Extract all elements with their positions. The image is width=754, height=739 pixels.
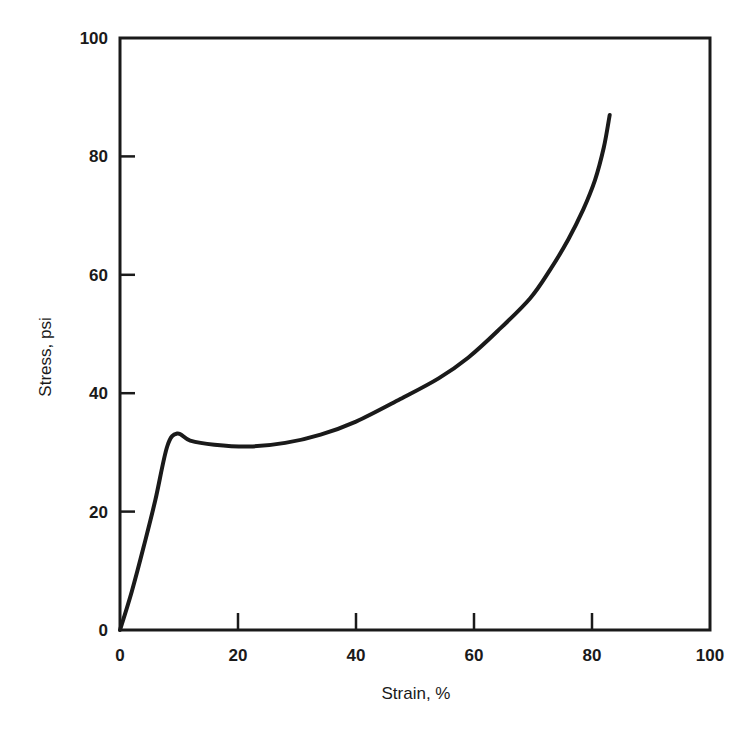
- y-tick-label: 20: [89, 503, 108, 522]
- x-axis-title: Strain, %: [382, 684, 451, 703]
- x-tick-label: 60: [465, 646, 484, 665]
- x-tick-label: 40: [347, 646, 366, 665]
- y-tick-label: 0: [99, 621, 108, 640]
- y-axis-title: Stress, psi: [36, 317, 55, 396]
- x-tick-label: 80: [583, 646, 602, 665]
- x-tick-label: 100: [696, 646, 724, 665]
- y-tick-label: 40: [89, 384, 108, 403]
- stress-strain-chart: 020406080100 020406080100 Strain, % Stre…: [0, 0, 754, 739]
- x-tick-label: 20: [229, 646, 248, 665]
- y-axis-tick-labels: 020406080100: [80, 29, 108, 640]
- x-tick-label: 0: [115, 646, 124, 665]
- y-tick-label: 100: [80, 29, 108, 48]
- y-tick-label: 80: [89, 147, 108, 166]
- x-axis-tick-labels: 020406080100: [115, 646, 724, 665]
- stress-strain-curve: [120, 115, 610, 630]
- y-tick-label: 60: [89, 266, 108, 285]
- plot-frame: [120, 38, 710, 630]
- x-axis-ticks: [238, 613, 592, 630]
- y-axis-ticks: [120, 156, 135, 511]
